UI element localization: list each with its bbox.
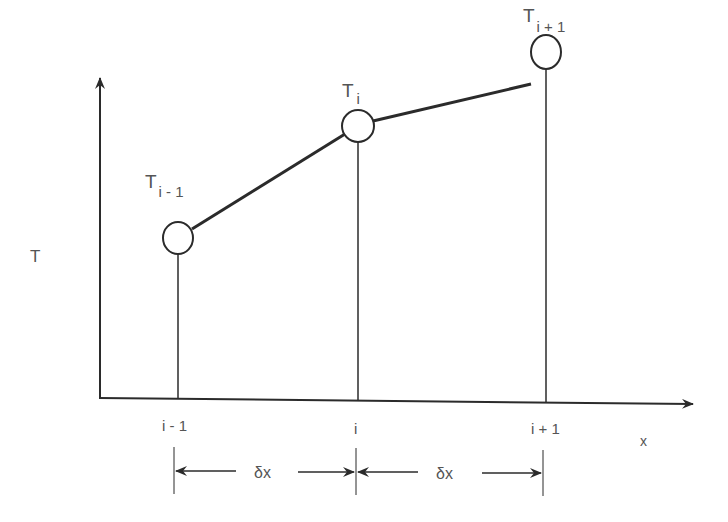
spacing-label-1: δx <box>254 464 271 481</box>
node-circle-i <box>342 110 374 142</box>
node-label-i: Ti <box>342 80 360 107</box>
node-circle-i-minus-1 <box>163 222 193 254</box>
x-tick-i: i <box>354 420 357 437</box>
node-circle-i-plus-1 <box>531 35 561 69</box>
finite-difference-diagram: T x Ti - 1 Ti Ti + 1 i - 1 i i + 1 δx δx <box>0 0 728 522</box>
x-tick-i-minus-1: i - 1 <box>162 417 187 434</box>
node-label-i-minus-1: Ti - 1 <box>145 171 184 200</box>
y-axis-label: T <box>30 247 40 266</box>
node-label-i-plus-1: Ti + 1 <box>523 5 565 35</box>
segment-2 <box>373 84 531 121</box>
x-axis <box>99 398 693 404</box>
x-axis-label: x <box>640 433 647 449</box>
segment-1 <box>192 134 345 229</box>
spacing-label-2: δx <box>436 465 453 482</box>
x-tick-i-plus-1: i + 1 <box>531 420 560 437</box>
